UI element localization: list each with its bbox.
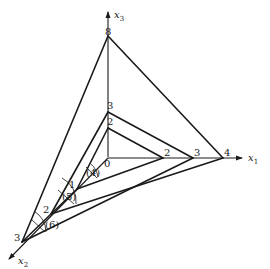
x2-axis-label: x2 — [18, 256, 28, 269]
vertex-label-x3-2: 2 — [107, 117, 113, 127]
vertex-label-x2-2: 2 — [43, 205, 49, 215]
vertex-label-x2-1: 1 — [69, 180, 75, 190]
vertex-label-x1-4: 4 — [224, 148, 230, 158]
edge-2x3-2x1 — [108, 128, 163, 158]
angle-label-6: (6) — [45, 220, 59, 230]
vertex-label-origin: 0 — [104, 159, 110, 169]
edge-8x3-4x1 — [108, 36, 223, 158]
x3-axis-label: x3 — [114, 10, 124, 23]
vertex-label-x1-2: 2 — [164, 148, 170, 158]
edge-8x3-3x2 — [22, 36, 108, 242]
polytope-diagram — [0, 0, 270, 269]
vertex-label-x3-3: 3 — [107, 101, 113, 111]
vertex-label-x3-8: 8 — [105, 27, 111, 37]
vertex-label-x2-3: 3 — [14, 233, 20, 243]
x1-axis-label: x1 — [248, 153, 258, 166]
vertex-label-x1-3: 3 — [194, 148, 200, 158]
angle-label-5: (5) — [62, 192, 76, 202]
angle-label-4: (4) — [86, 168, 100, 178]
